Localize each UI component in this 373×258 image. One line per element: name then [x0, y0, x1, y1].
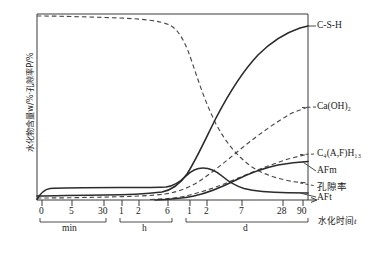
series-label-csh: C-S-H [317, 21, 342, 31]
brace-min [40, 218, 106, 222]
series-label-porosity: 孔隙率 [317, 182, 347, 192]
series-label-c4afh13: C₄(A,F)H₁₃ [317, 149, 361, 159]
x-tick-label-min-0: 0 [39, 207, 44, 217]
x-tick-label-h-2: 2 [136, 207, 141, 217]
x-axis-title: 水化时间t [318, 217, 357, 226]
x-tick-label-min-5: 5 [69, 207, 74, 217]
leader-c4afh13 [300, 154, 316, 155]
x-group-label-d: d [243, 224, 248, 234]
leader-afm [302, 162, 316, 172]
x-tick-label-d-7: 7 [239, 207, 244, 217]
x-tick-label-d-28: 28 [277, 207, 287, 217]
leader-caoh2 [302, 107, 316, 108]
y-axis-title: 水化物含量w/%·孔隙率P/% [23, 27, 35, 177]
x-axis-title-text: 水化时间 [318, 216, 354, 226]
x-group-label-h: h [142, 224, 147, 234]
hydration-chart-figure: 水化物含量w/%·孔隙率P/% 0 5 30 1 2 6 1 2 7 28 90… [0, 0, 373, 258]
series-label-aft: AFt [317, 193, 332, 203]
series-label-caoh2: Ca(OH)₂ [317, 102, 351, 112]
x-tick-label-h-1: 1 [119, 207, 124, 217]
series-label-afm: AFm [317, 166, 337, 176]
curve-caoh2 [37, 107, 308, 198]
x-tick-label-min-30: 30 [98, 207, 108, 217]
y-axis-title-text: 水化物含量w/%·孔隙率P/% [25, 52, 35, 151]
curve-porosity [37, 16, 308, 183]
x-group-label-min: min [62, 224, 77, 234]
curve-csh [37, 26, 308, 196]
brace-h [120, 218, 172, 222]
x-tick-label-d-90: 90 [297, 207, 307, 217]
x-axis-title-var: t [354, 216, 357, 226]
x-tick-label-h-6: 6 [165, 207, 170, 217]
brace-d [186, 218, 308, 222]
x-tick-label-d-2: 2 [204, 207, 209, 217]
x-tick-label-d-1: 1 [187, 207, 192, 217]
